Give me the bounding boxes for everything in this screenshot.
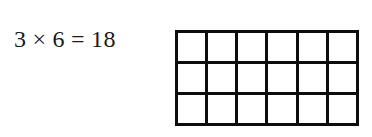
grid-cell (178, 64, 205, 92)
grid-cell (208, 95, 235, 123)
grid-cell (238, 95, 265, 123)
grid-cell (238, 64, 265, 92)
multiplication-equation: 3×6=18 (14, 26, 122, 53)
grid-cell (208, 64, 235, 92)
right-operand: 6 (53, 26, 66, 52)
grid-cell (268, 33, 295, 61)
grid-cell (268, 64, 295, 92)
grid-cell (299, 64, 326, 92)
grid-cell (329, 64, 356, 92)
times-operator: × (33, 26, 47, 52)
product-result: 18 (91, 26, 116, 52)
grid-cell (178, 33, 205, 61)
grid-cell (268, 95, 295, 123)
equals-sign: = (71, 26, 85, 52)
grid-cell (238, 33, 265, 61)
grid-cell (329, 95, 356, 123)
array-grid-3x6 (175, 30, 359, 126)
left-operand: 3 (14, 26, 27, 52)
grid-cell (178, 95, 205, 123)
grid-cell (299, 33, 326, 61)
grid-cell (208, 33, 235, 61)
grid-cell (329, 33, 356, 61)
grid-cell (299, 95, 326, 123)
